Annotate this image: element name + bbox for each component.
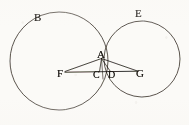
- geometry-canvas: [0, 0, 189, 125]
- segment-F-G: [65, 71, 138, 72]
- geometry-figure: B E A F C D G: [0, 0, 189, 125]
- right-circle: [104, 21, 180, 97]
- point-label-A: A: [97, 49, 105, 60]
- segment-A-below: [102, 59, 104, 80]
- point-label-E: E: [135, 8, 142, 19]
- point-label-D: D: [108, 70, 115, 80]
- point-label-G: G: [136, 68, 144, 79]
- point-label-C: C: [93, 70, 100, 80]
- point-label-B: B: [34, 12, 41, 23]
- point-label-F: F: [57, 68, 63, 79]
